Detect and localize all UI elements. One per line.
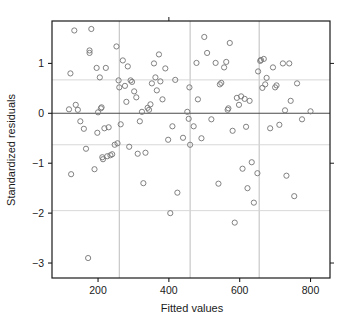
x-tick-label: 400: [160, 284, 178, 296]
x-tick-label: 800: [302, 284, 320, 296]
y-axis-title: Standardized residuals: [5, 94, 17, 206]
y-tick-label: 0: [38, 107, 44, 119]
x-axis-title: Fitted values: [161, 302, 224, 314]
y-tick-label: 1: [38, 57, 44, 69]
scatter-plot: 200400600800 10−1−2−3 Fitted values Stan…: [0, 0, 348, 324]
y-tick-label: −3: [32, 257, 44, 269]
x-tick-label: 200: [89, 284, 107, 296]
y-tick-label: −2: [32, 207, 44, 219]
residual-plot-page: 200400600800 10−1−2−3 Fitted values Stan…: [0, 0, 348, 324]
x-tick-label: 600: [231, 284, 249, 296]
y-tick-label: −1: [32, 157, 44, 169]
